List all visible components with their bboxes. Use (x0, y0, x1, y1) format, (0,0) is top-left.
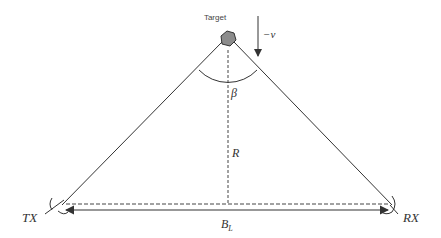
bistatic-geometry-diagram: Target −v β R BL TX RX (0, 0, 441, 238)
rx-label: RX (402, 210, 420, 225)
target-icon (221, 31, 236, 46)
target-rx-path (234, 42, 392, 205)
beta-label: β (230, 86, 237, 100)
tx-antenna-icon (45, 198, 68, 214)
baseline-label: BL (221, 217, 233, 233)
rx-antenna-icon (380, 196, 398, 214)
target-label: Target (204, 13, 227, 22)
tx-label: TX (22, 210, 38, 225)
tx-target-path (62, 42, 222, 205)
range-label: R (231, 146, 240, 160)
velocity-label: −v (263, 28, 275, 40)
